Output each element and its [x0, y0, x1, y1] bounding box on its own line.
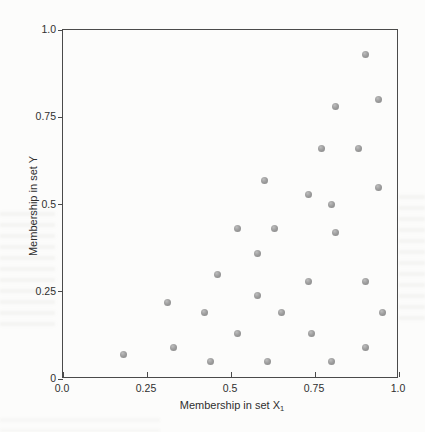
data-point	[362, 278, 369, 285]
data-point	[308, 330, 315, 337]
data-point	[332, 103, 339, 110]
x-axis-title-subscript: 1	[280, 404, 284, 413]
y-tick-label: 0.25	[36, 284, 56, 297]
data-point	[164, 299, 171, 306]
y-axis-tick	[58, 204, 63, 205]
data-point	[271, 225, 278, 232]
y-axis-tick	[58, 379, 63, 380]
data-point	[234, 225, 241, 232]
print-bleed-artifact	[0, 418, 160, 432]
data-point	[214, 271, 221, 278]
data-point	[332, 229, 339, 236]
data-point	[234, 330, 241, 337]
data-point	[261, 177, 268, 184]
data-point	[362, 51, 369, 58]
x-axis-tick	[147, 372, 148, 377]
x-tick-label: 0.5	[223, 382, 238, 395]
y-tick-label: 0	[50, 372, 56, 385]
x-axis-tick	[399, 372, 400, 377]
y-tick-label: 0.75	[36, 110, 56, 123]
x-axis-tick	[63, 372, 64, 377]
data-point	[305, 278, 312, 285]
y-tick-label: 0.5	[41, 197, 56, 210]
x-axis-title-text: Membership in set X	[180, 399, 280, 411]
data-point	[254, 292, 261, 299]
y-axis-tick	[58, 30, 63, 31]
x-tick-label: 0.25	[136, 382, 156, 395]
data-point	[264, 358, 271, 365]
x-tick-label: 0.0	[55, 382, 70, 395]
x-tick-label: 0.75	[304, 382, 324, 395]
data-point	[120, 351, 127, 358]
data-point	[201, 309, 208, 316]
print-bleed-artifact	[399, 195, 425, 325]
data-point	[355, 145, 362, 152]
data-point	[170, 344, 177, 351]
data-point	[375, 184, 382, 191]
data-point	[254, 250, 261, 257]
data-point	[375, 96, 382, 103]
x-axis-tick	[315, 372, 316, 377]
y-axis-tick	[58, 291, 63, 292]
plot-area	[62, 29, 398, 378]
data-point	[328, 358, 335, 365]
data-point	[318, 145, 325, 152]
scatter-figure: Membership in set X1 Membership in set Y…	[0, 0, 425, 432]
data-point	[207, 358, 214, 365]
y-tick-label: 1.0	[41, 23, 56, 36]
x-axis-title: Membership in set X1	[180, 399, 284, 413]
data-point	[278, 309, 285, 316]
y-axis-title: Membership in set Y	[27, 156, 39, 256]
x-tick-label: 1.0	[391, 382, 406, 395]
y-axis-tick	[58, 117, 63, 118]
data-point	[305, 191, 312, 198]
data-point	[379, 309, 386, 316]
x-axis-tick	[231, 372, 232, 377]
data-point	[328, 201, 335, 208]
data-point	[362, 344, 369, 351]
